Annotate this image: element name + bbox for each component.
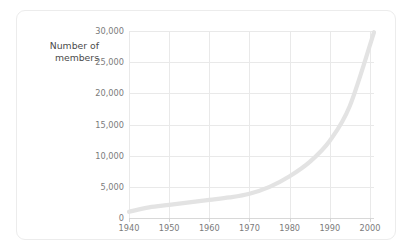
y-tick-label: 10,000 (95, 151, 124, 161)
y-tick-label: 20,000 (95, 88, 124, 98)
y-tick-label: 25,000 (95, 57, 124, 67)
x-tick-label: 1960 (199, 223, 220, 233)
y-tick-label: 15,000 (95, 120, 124, 130)
data-series-line (129, 32, 374, 212)
vertical-gridlines (130, 31, 371, 218)
line-chart: 05,00010,00015,00020,00025,00030,000 194… (0, 0, 414, 252)
x-tick-label: 2000 (360, 223, 381, 233)
horizontal-gridlines (129, 32, 374, 219)
x-tick-label: 1990 (319, 223, 340, 233)
y-tick-labels: 05,00010,00015,00020,00025,00030,000 (95, 26, 124, 223)
x-tick-label: 1970 (239, 223, 260, 233)
y-axis-title-line-1: Number of (50, 40, 100, 51)
y-tick-label: 30,000 (95, 26, 124, 36)
x-tick-label: 1950 (159, 223, 180, 233)
y-tick-label: 5,000 (101, 182, 124, 192)
x-tick-labels: 1940195019601970198019902000 (119, 223, 381, 233)
x-tick-label: 1940 (119, 223, 140, 233)
y-axis-title-line-2: members (55, 52, 99, 63)
x-tick-label: 1980 (279, 223, 300, 233)
